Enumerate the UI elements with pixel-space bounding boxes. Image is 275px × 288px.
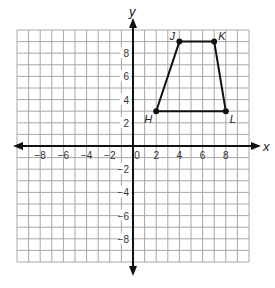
y-tick-label: −2 (118, 164, 130, 175)
vertex-label-h: H (144, 113, 152, 125)
x-tick-label: −6 (58, 150, 70, 161)
trapezoid-hjkl: HJKL (144, 30, 236, 126)
x-tick-label: −2 (104, 150, 116, 161)
x-tick-label: −4 (81, 150, 93, 161)
y-tick-label: 2 (123, 118, 129, 129)
x-tick-label: −8 (34, 150, 46, 161)
vertex-point-k (211, 39, 217, 45)
y-tick-label: 6 (123, 71, 129, 82)
y-axis-arrow-up-icon (129, 18, 137, 28)
vertex-label-l: L (230, 113, 236, 125)
coordinate-plane: xy −8−6−4−202468−8−6−4−22468 HJKL (0, 0, 275, 288)
x-axis-label: x (262, 139, 270, 154)
x-axis-arrow-right-icon (251, 142, 261, 150)
x-tick-label: 6 (200, 150, 206, 161)
y-tick-label: −8 (118, 234, 130, 245)
x-tick-label: 8 (223, 150, 229, 161)
vertex-point-j (176, 39, 182, 45)
vertex-point-l (223, 108, 229, 114)
y-axis-arrow-down-icon (129, 266, 137, 276)
y-tick-label: 8 (123, 48, 129, 59)
vertex-label-j: J (168, 30, 175, 42)
x-axis-arrow-left-icon (13, 142, 23, 150)
y-tick-label: −4 (118, 187, 130, 198)
vertex-label-k: K (218, 30, 226, 42)
x-tick-label: 0 (134, 150, 140, 161)
vertex-point-h (153, 108, 159, 114)
y-axis-label: y (128, 4, 137, 19)
x-tick-label: 2 (153, 150, 159, 161)
y-tick-label: −6 (118, 211, 130, 222)
x-tick-label: 4 (177, 150, 183, 161)
y-tick-label: 4 (123, 95, 129, 106)
